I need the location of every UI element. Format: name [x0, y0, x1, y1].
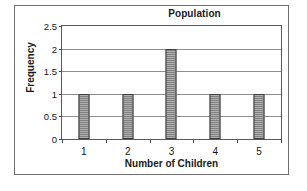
- x-tick-mark: [281, 139, 282, 143]
- x-tick-label: 2: [125, 146, 131, 157]
- y-tick-label: 2.5: [44, 21, 57, 32]
- x-tick-mark: [237, 139, 238, 143]
- chart-title-text: Population: [168, 8, 221, 19]
- y-axis-title: Frequency: [25, 32, 36, 104]
- x-tick-label: 5: [256, 146, 262, 157]
- plot-area: 2.5 2 1.5 1 0.5 0 1 2 3 4 5: [61, 25, 282, 140]
- x-tick-mark: [106, 139, 107, 143]
- bar-slot: 5: [237, 26, 281, 139]
- y-tick-label: 0.5: [44, 111, 57, 122]
- y-tick-label: 2: [52, 43, 57, 54]
- bar-category-3[interactable]: [166, 49, 177, 139]
- bar-slot: 4: [193, 26, 237, 139]
- x-tick-mark: [193, 139, 194, 143]
- bar-category-1[interactable]: [78, 94, 89, 139]
- bar-slot: 3: [150, 26, 194, 139]
- bar-category-4[interactable]: [210, 94, 221, 139]
- x-tick-mark: [62, 139, 63, 143]
- x-tick-label: 1: [81, 146, 87, 157]
- chart-title: Population: [15, 8, 290, 19]
- bar-slot: 2: [106, 26, 150, 139]
- x-tick-label: 4: [213, 146, 219, 157]
- x-axis-title: Number of Children: [61, 158, 282, 169]
- x-tick-label: 3: [169, 146, 175, 157]
- y-tick-label: 1: [52, 88, 57, 99]
- chart-frame: Population Frequency 2.5 2 1.5 1 0.5 0 1…: [14, 5, 289, 175]
- x-tick-mark: [150, 139, 151, 143]
- bar-slot: 1: [62, 26, 106, 139]
- bar-category-5[interactable]: [254, 94, 265, 139]
- y-tick-label: 0: [52, 134, 57, 145]
- y-tick-label: 1.5: [44, 66, 57, 77]
- bar-category-2[interactable]: [122, 94, 133, 139]
